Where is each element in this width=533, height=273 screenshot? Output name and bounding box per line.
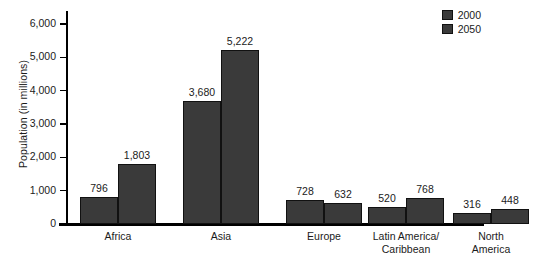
y-axis-tick xyxy=(60,123,67,125)
bar-value-label: 1,803 xyxy=(112,149,162,161)
legend-item: 2050 xyxy=(442,23,481,35)
y-axis-tick-label: 1,000 xyxy=(12,184,56,196)
y-axis-tick-label: 4,000 xyxy=(12,84,56,96)
legend: 20002050 xyxy=(442,9,481,35)
y-axis-tick xyxy=(60,57,67,59)
bar xyxy=(491,209,529,224)
y-axis-tick-label: 3,000 xyxy=(12,117,56,129)
bar-value-label: 5,222 xyxy=(215,35,265,47)
bar xyxy=(406,198,444,224)
y-axis-tick-label: 0 xyxy=(12,217,56,229)
bar xyxy=(221,50,259,224)
bars-layer: 7961,8033,6805,222728632520768316448 xyxy=(68,0,484,224)
y-axis-tick-label: 5,000 xyxy=(12,50,56,62)
bar-value-label: 796 xyxy=(74,182,124,194)
y-axis-tick-label: 2,000 xyxy=(12,150,56,162)
legend-item: 2000 xyxy=(442,9,481,21)
bar xyxy=(183,101,221,224)
bar-value-label: 632 xyxy=(318,188,368,200)
bar-value-label: 3,680 xyxy=(177,86,227,98)
bar-value-label: 768 xyxy=(400,183,450,195)
y-axis-tick xyxy=(60,190,67,192)
y-axis-tick-labels: 01,0002,0003,0004,0005,0006,000 xyxy=(8,0,56,273)
y-axis-tick-label: 6,000 xyxy=(12,17,56,29)
bar xyxy=(286,200,324,224)
x-axis-category-label: NorthAmerica xyxy=(429,230,533,255)
bar xyxy=(118,164,156,224)
legend-label: 2050 xyxy=(458,23,481,35)
x-axis-category-label-line: America xyxy=(429,243,533,256)
bar-value-label: 448 xyxy=(485,194,533,206)
bar xyxy=(324,203,362,224)
y-axis-tick xyxy=(60,90,67,92)
bar xyxy=(80,197,118,224)
x-axis-category-label-line: North xyxy=(429,230,533,243)
legend-swatch-icon xyxy=(442,24,453,34)
bar xyxy=(453,213,491,224)
legend-swatch-icon xyxy=(442,10,453,20)
bar xyxy=(368,207,406,224)
y-axis-tick xyxy=(60,223,67,225)
legend-label: 2000 xyxy=(458,9,481,21)
y-axis-tick xyxy=(60,23,67,25)
y-axis-tick xyxy=(60,157,67,159)
